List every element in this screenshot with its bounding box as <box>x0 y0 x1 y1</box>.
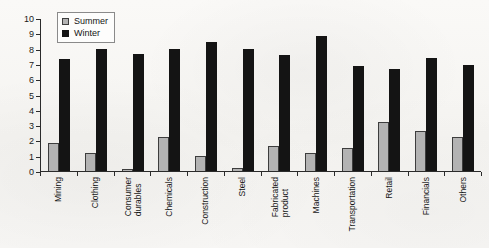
x-category-label-text: Fabricated product <box>270 177 289 217</box>
legend-label-winter: Winter <box>74 29 100 38</box>
y-tick-label: 9 <box>29 30 34 39</box>
x-category-label: Clothing <box>78 175 115 247</box>
bar-summer <box>378 122 389 171</box>
y-tick-label: 0 <box>29 168 34 177</box>
y-tick <box>36 65 40 66</box>
y-tick <box>36 80 40 81</box>
bar-group <box>224 19 261 171</box>
bar-winter <box>279 55 290 171</box>
x-category-label: Financials <box>409 175 446 247</box>
x-category-label-text: Construction <box>202 177 212 225</box>
y-tick-label: 6 <box>29 76 34 85</box>
y-tick-label: 10 <box>24 15 34 24</box>
bar-group <box>151 19 188 171</box>
bar-summer <box>122 169 133 171</box>
y-tick <box>36 34 40 35</box>
bar-winter <box>243 49 254 171</box>
bar-winter <box>316 36 327 171</box>
bar-summer <box>85 153 96 171</box>
y-tick <box>36 157 40 158</box>
y-tick-label: 5 <box>29 91 34 100</box>
legend: Summer Winter <box>57 12 115 43</box>
bar-group <box>334 19 371 171</box>
bar-chart: 012345678910 MiningClothingConsumer dura… <box>0 0 489 248</box>
bar-summer <box>232 168 243 171</box>
x-category-labels: MiningClothingConsumer durablesChemicals… <box>41 175 482 247</box>
y-tick-label: 3 <box>29 122 34 131</box>
x-category-label-text: Chemicals <box>165 177 175 217</box>
x-category-label-text: Retail <box>385 177 395 199</box>
y-tick <box>36 19 40 20</box>
x-category-label-text: Others <box>459 177 469 203</box>
bar-group <box>371 19 408 171</box>
x-category-label-text: Financials <box>422 177 432 215</box>
x-category-label: Consumer durables <box>115 175 152 247</box>
x-category-label: Chemicals <box>151 175 188 247</box>
x-category-label: Mining <box>41 175 78 247</box>
legend-swatch-summer <box>62 18 69 25</box>
x-category-label: Fabricated product <box>262 175 299 247</box>
bar-summer <box>195 156 206 171</box>
x-category-label-text: Steel <box>238 177 248 196</box>
bar-group <box>444 19 481 171</box>
bar-group <box>261 19 298 171</box>
y-tick-label: 2 <box>29 137 34 146</box>
y-tick-label: 7 <box>29 60 34 69</box>
x-category-label: Steel <box>225 175 262 247</box>
x-category-label-text: Machines <box>312 177 322 213</box>
bar-summer <box>48 143 59 171</box>
y-tick <box>36 50 40 51</box>
bar-winter <box>169 49 180 171</box>
bar-winter <box>389 69 400 172</box>
bar-group <box>188 19 225 171</box>
y-tick-label: 1 <box>29 152 34 161</box>
y-tick <box>36 96 40 97</box>
legend-label-summer: Summer <box>74 17 108 26</box>
x-category-label: Others <box>445 175 482 247</box>
x-category-label-text: Transportation <box>349 177 359 232</box>
bar-summer <box>452 137 463 171</box>
x-category-label: Transportation <box>335 175 372 247</box>
x-category-label-text: Mining <box>55 177 65 202</box>
bar-group <box>114 19 151 171</box>
y-tick-label: 4 <box>29 106 34 115</box>
bar-winter <box>206 42 217 171</box>
x-category-label: Machines <box>298 175 335 247</box>
bar-group <box>298 19 335 171</box>
bar-summer <box>158 137 169 171</box>
bar-winter <box>426 58 437 171</box>
bar-summer <box>342 148 353 171</box>
bar-summer <box>415 131 426 171</box>
x-category-label-text: Clothing <box>91 177 101 208</box>
y-tick <box>36 111 40 112</box>
y-tick <box>36 126 40 127</box>
bar-winter <box>353 66 364 171</box>
bar-group <box>408 19 445 171</box>
y-tick <box>36 141 40 142</box>
bar-winter <box>133 54 144 171</box>
bar-winter <box>59 59 70 171</box>
x-category-label: Retail <box>372 175 409 247</box>
bar-winter <box>463 65 474 171</box>
bar-winter <box>96 49 107 171</box>
x-category-label-text: Consumer durables <box>123 177 142 216</box>
bar-summer <box>305 153 316 171</box>
y-tick-label: 8 <box>29 45 34 54</box>
bar-summer <box>268 146 279 171</box>
legend-item-summer: Summer <box>62 15 108 27</box>
legend-item-winter: Winter <box>62 27 108 39</box>
x-category-label: Construction <box>188 175 225 247</box>
legend-swatch-winter <box>62 30 69 37</box>
